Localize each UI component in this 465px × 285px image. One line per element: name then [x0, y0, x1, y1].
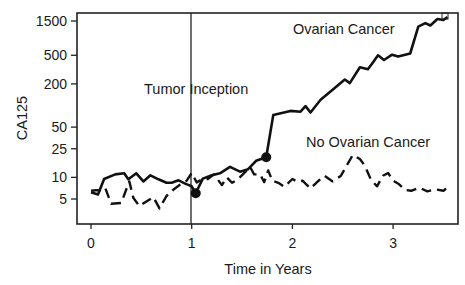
- x-axis-title: Time in Years: [224, 261, 311, 277]
- x-tick-label: 0: [87, 235, 95, 251]
- x-tick-label: 1: [188, 235, 196, 251]
- y-tick-label: 25: [51, 141, 67, 157]
- y-tick-label: 10: [51, 169, 67, 185]
- y-tick-label: 500: [44, 47, 68, 63]
- data-point-marker: [191, 188, 201, 198]
- y-tick-label: 50: [51, 119, 67, 135]
- x-tick-label: 2: [289, 235, 297, 251]
- y-tick-label: 5: [59, 191, 67, 207]
- series-ovarian-cancer: [91, 17, 448, 194]
- annotation-ovarian-cancer: Ovarian Cancer: [293, 21, 395, 37]
- y-axis: 51025502005001500: [36, 13, 77, 207]
- x-axis: 0123: [87, 224, 397, 251]
- x-tick-label: 3: [389, 235, 397, 251]
- y-tick-label: 1500: [36, 13, 67, 29]
- plot-frame: [77, 13, 458, 224]
- y-tick-label: 200: [44, 76, 68, 92]
- y-axis-title: CA125: [14, 96, 30, 140]
- annotation-tumor-inception: Tumor Inception: [144, 81, 248, 97]
- annotation-no-ovarian-cancer: No Ovarian Cancer: [306, 134, 430, 150]
- ca125-chart: 51025502005001500 0123 Tumor Inception O…: [0, 0, 465, 285]
- data-point-marker: [261, 152, 271, 162]
